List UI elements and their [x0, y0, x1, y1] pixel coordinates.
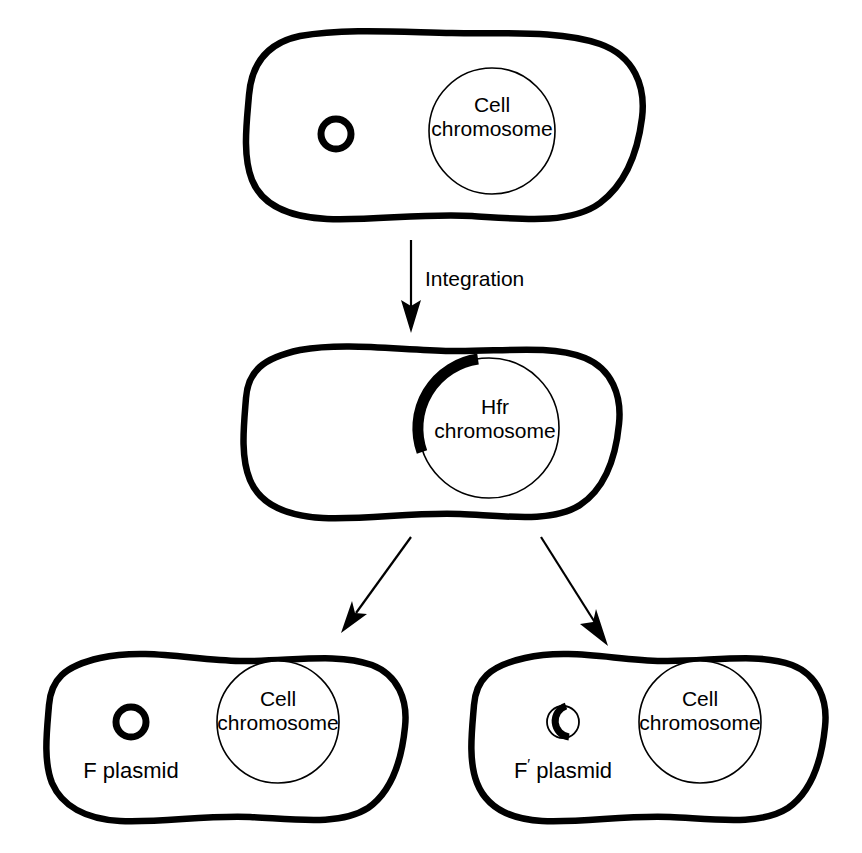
nucleoid-label-line1: Cell: [682, 687, 718, 710]
nucleoid-label-line1: Cell: [260, 687, 296, 710]
integration-arrow: [401, 240, 421, 333]
arrow-down-right-icon: [580, 609, 608, 646]
nucleoid-label-line2: chromosome: [431, 117, 552, 140]
branch-arrow-right: [541, 537, 608, 646]
cell-f-plus: Cell chromosome: [246, 31, 643, 219]
nucleoid-label-line1: Cell: [474, 93, 510, 116]
f-prime-label-base: F: [514, 758, 527, 783]
nucleoid-label-line1: Hfr: [481, 395, 509, 418]
arrow-shaft: [356, 537, 411, 613]
arrow-shaft: [541, 537, 594, 621]
nucleoid-label-line2: chromosome: [434, 419, 555, 442]
cell-f-prime-plasmid: Cell chromosome F′ plasmid: [471, 654, 825, 821]
integration-label: Integration: [425, 267, 524, 290]
figure-canvas: Cell chromosome Integration Hfr chromoso…: [0, 0, 862, 853]
cell-diagram: Cell chromosome Integration Hfr chromoso…: [0, 0, 862, 853]
nucleoid-label-line2: chromosome: [217, 711, 338, 734]
cell-hfr: Hfr chromosome: [244, 346, 620, 518]
f-prime-label-rest: plasmid: [530, 758, 612, 783]
branch-arrow-left: [341, 537, 411, 633]
f-plasmid-label: F plasmid: [83, 758, 178, 783]
cell-f-plasmid: Cell chromosome F plasmid: [46, 654, 405, 821]
nucleoid-label-line2: chromosome: [639, 711, 760, 734]
arrow-down-left-icon: [341, 601, 367, 633]
